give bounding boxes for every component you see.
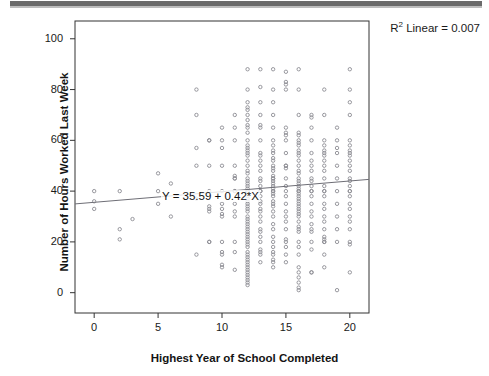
axis-ticks [70, 39, 350, 318]
x-tick-label: 20 [330, 321, 370, 333]
r-squared-annotation: R2 Linear = 0.007 [390, 22, 480, 34]
regression-equation-annotation: Y = 35.59 + 0.42*X [161, 190, 260, 202]
x-axis-title: Highest Year of School Completed [0, 352, 489, 364]
y-tick-label: 0 [23, 286, 63, 298]
y-tick-label: 80 [23, 83, 63, 95]
y-tick-label: 100 [23, 32, 63, 44]
x-tick-label: 15 [266, 321, 306, 333]
x-tick-label: 0 [74, 321, 114, 333]
scatterplot-figure: Number of Hours Worked Last Week Highest… [0, 0, 489, 376]
r-squared-value-text: Linear = 0.007 [403, 22, 480, 34]
x-tick-label: 5 [138, 321, 178, 333]
y-tick-label: 20 [23, 235, 63, 247]
r-squared-prefix: R [390, 22, 398, 34]
x-tick-label: 10 [202, 321, 242, 333]
y-axis-title: Number of Hours Worked Last Week [58, 22, 70, 322]
y-tick-label: 60 [23, 133, 63, 145]
y-tick-label: 40 [23, 184, 63, 196]
plot-canvas [0, 0, 489, 376]
data-points [92, 68, 351, 292]
